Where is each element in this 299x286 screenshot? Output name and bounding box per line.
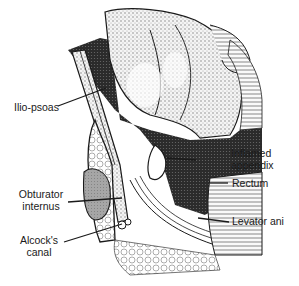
label-obturator-internus-line1: Obturator (16, 188, 66, 200)
label-rectum: Rectum (232, 177, 268, 189)
label-alcocks-canal-line1: Alcock's (16, 234, 62, 246)
obturator-gray (83, 169, 110, 220)
label-obturator-internus: Obturator internus (16, 188, 66, 212)
label-inflamed-appendix-line1: Inflamed (231, 147, 274, 159)
label-ilio-psoas: Ilio-psoas (14, 101, 59, 113)
label-levator-ani: Levator ani (232, 215, 284, 227)
label-inflamed-appendix: Inflamed appendix (231, 147, 274, 171)
label-inflamed-appendix-line2: appendix (231, 159, 274, 171)
label-obturator-internus-line2: internus (16, 200, 66, 212)
label-alcocks-canal: Alcock's canal (16, 234, 62, 258)
perineal-fat (114, 240, 220, 275)
anatomy-figure: Ilio-psoas Inflamed appendix Obturator i… (0, 0, 299, 286)
label-alcocks-canal-line2: canal (16, 246, 62, 258)
